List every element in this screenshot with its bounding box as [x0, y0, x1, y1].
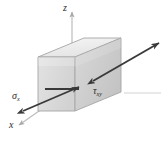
figure-canvas [0, 0, 163, 141]
sigma-subscript: x [17, 95, 20, 102]
axis-label-x: x [9, 120, 13, 130]
box-shade-highlight [38, 57, 75, 66]
stress-element-figure: z x σx τxy [0, 0, 163, 141]
axis-label-z: z [63, 3, 67, 13]
stress-label-sigma-x: σx [12, 91, 19, 102]
tau-subscript: xy [97, 90, 102, 97]
stress-label-tau-xy: τxy [93, 86, 102, 97]
